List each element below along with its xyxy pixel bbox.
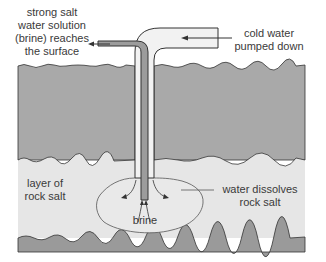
label-brine-out: strong salt water solution (brine) reach…: [10, 6, 94, 58]
label-water-in: cold water pumped down: [234, 27, 304, 53]
label-line: cold water: [234, 27, 304, 40]
rock-layer: [18, 64, 135, 160]
rock-layer-right: [154, 59, 305, 160]
label-line: strong salt: [10, 6, 94, 19]
label-line: water solution: [10, 19, 94, 32]
label-line: rock salt: [215, 196, 305, 209]
label-brine: brine: [128, 214, 162, 227]
label-line: the surface: [10, 45, 94, 58]
label-line: layer of: [20, 177, 70, 190]
label-line: rock salt: [20, 190, 70, 203]
label-dissolves: water dissolves rock salt: [215, 183, 305, 209]
label-line: (brine) reaches: [10, 32, 94, 45]
label-line: pumped down: [234, 40, 304, 53]
label-salt-layer: layer of rock salt: [20, 177, 70, 203]
label-line: water dissolves: [215, 183, 305, 196]
